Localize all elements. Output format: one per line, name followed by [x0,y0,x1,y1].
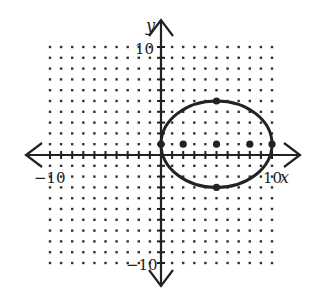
point-vertex-left [157,141,164,148]
y-min-tick-label: −10 [126,256,158,274]
point-focus-left [180,141,187,148]
x-max-tick-label: 10 [263,169,282,187]
ellipse-graph: y x 10 −10 −10 10 [0,0,317,307]
x-min-tick-label: −10 [34,169,66,187]
point-covertex-bottom [213,184,220,191]
y-axis-label: y [145,16,156,35]
point-center [213,141,220,148]
point-covertex-top [213,97,220,104]
point-vertex-right [268,141,275,148]
y-max-tick-label: 10 [135,40,154,58]
point-focus-right [246,141,253,148]
